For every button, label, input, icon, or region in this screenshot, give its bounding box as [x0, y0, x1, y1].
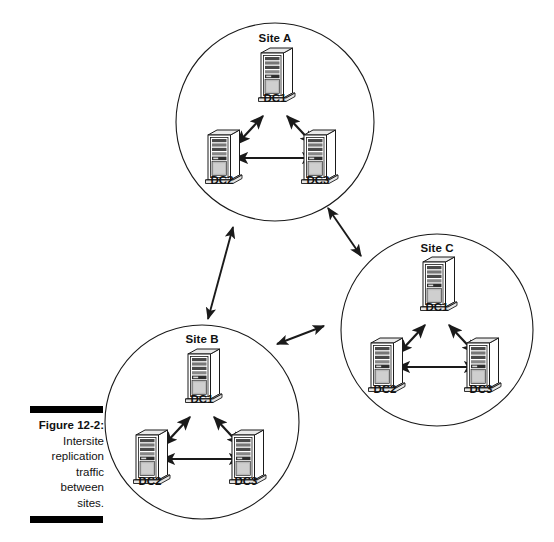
- figure-container: Site ADC1DC2DC3Site BDC1DC2DC3Site CDC1D…: [0, 0, 554, 542]
- dc-label-b-dc2: DC2: [138, 475, 161, 487]
- dc-label-c-dc2: DC2: [373, 383, 396, 395]
- intrasite-replication-links-site-c: [397, 325, 477, 367]
- intrasite-replication-links-site-b: [162, 417, 242, 459]
- caption-line: Intersite: [8, 434, 104, 450]
- caption-line: sites.: [8, 496, 104, 512]
- dc-label-b-dc1: DC1: [190, 393, 213, 405]
- caption-rule-top: [30, 406, 103, 413]
- caption-text: Figure 12-2: Intersitereplicationtraffic…: [8, 413, 104, 511]
- dc-label-c-dc3: DC3: [469, 383, 492, 395]
- intrasite-replication-links-site-a: [235, 116, 315, 158]
- dc-label-a-dc1: DC1: [263, 92, 286, 104]
- intersite-link-a-c: [328, 208, 361, 256]
- caption-rule-bottom: [30, 516, 103, 523]
- site-title-site-a: Site A: [259, 32, 292, 44]
- intersite-link-a-b: [208, 227, 233, 319]
- site-circle-group: [105, 23, 533, 519]
- caption-body: Intersitereplicationtrafficbetweensites.: [8, 434, 104, 512]
- intersite-link-group: [208, 208, 361, 344]
- caption-line: traffic: [8, 465, 104, 481]
- dc-label-c-dc1: DC1: [425, 301, 448, 313]
- site-title-site-c: Site C: [420, 242, 453, 254]
- site-title-site-b: Site B: [185, 333, 218, 345]
- dc-label-a-dc3: DC3: [306, 174, 329, 186]
- caption-line: replication: [8, 449, 104, 465]
- caption-figure-number: Figure 12-2:: [8, 418, 104, 434]
- dc-label-a-dc2: DC2: [210, 174, 233, 186]
- intersite-link-b-c: [277, 326, 324, 344]
- caption-line: between: [8, 480, 104, 496]
- dc-label-b-dc3: DC3: [234, 475, 257, 487]
- figure-caption: Figure 12-2: Intersitereplicationtraffic…: [8, 406, 104, 523]
